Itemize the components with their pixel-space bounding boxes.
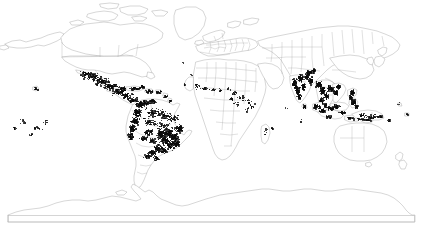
occurrence-dot: [165, 143, 166, 144]
occurrence-dot: [97, 84, 98, 85]
occurrence-dot: [157, 123, 158, 124]
occurrence-dot: [299, 87, 300, 88]
occurrence-dot: [174, 135, 175, 136]
occurrence-dot: [134, 130, 135, 131]
occurrence-dot: [271, 128, 272, 129]
occurrence-dot: [153, 103, 154, 104]
occurrence-dot: [152, 108, 153, 109]
occurrence-dot: [156, 102, 157, 103]
occurrence-dot: [97, 75, 98, 76]
occurrence-dot: [131, 138, 132, 139]
occurrence-dot: [357, 105, 359, 107]
occurrence-dot: [141, 107, 142, 108]
occurrence-dot: [170, 130, 171, 131]
occurrence-dot: [329, 87, 330, 88]
occurrence-dot: [145, 118, 146, 119]
occurrence-dot: [151, 154, 152, 155]
occurrence-dot: [331, 117, 332, 118]
occurrence-dot: [135, 113, 136, 114]
occurrence-dot: [322, 111, 323, 112]
occurrence-dot: [94, 79, 95, 80]
occurrence-dot: [331, 110, 332, 111]
occurrence-dot: [139, 113, 140, 114]
occurrence-dot: [150, 100, 151, 101]
occurrence-dot: [164, 133, 165, 134]
occurrence-dot: [238, 102, 239, 103]
occurrence-dot: [46, 122, 47, 123]
occurrence-dot: [168, 119, 169, 120]
occurrence-dot: [111, 87, 112, 88]
occurrence-dot: [197, 87, 198, 88]
occurrence-dot: [158, 136, 159, 137]
occurrence-dot: [164, 124, 165, 125]
occurrence-dot: [122, 90, 123, 91]
occurrence-dot: [352, 118, 353, 119]
occurrence-dot: [139, 118, 140, 119]
occurrence-dot: [264, 134, 265, 135]
occurrence-dot: [147, 137, 148, 138]
occurrence-dot: [177, 119, 178, 120]
occurrence-dot: [295, 82, 296, 83]
occurrence-dot: [93, 81, 94, 82]
occurrence-dot: [191, 75, 192, 76]
occurrence-dot: [154, 160, 155, 161]
occurrence-dot: [148, 104, 149, 105]
occurrence-dot: [236, 93, 237, 94]
occurrence-dot: [304, 89, 305, 90]
occurrence-dot: [334, 87, 335, 88]
occurrence-dot: [145, 123, 146, 124]
occurrence-dot: [29, 135, 30, 136]
occurrence-dot: [14, 129, 15, 130]
occurrence-dot: [165, 149, 166, 150]
occurrence-dot: [325, 107, 326, 108]
occurrence-dot: [93, 75, 94, 76]
occurrence-dot: [123, 97, 124, 98]
occurrence-dot: [161, 91, 162, 92]
occurrence-dot: [165, 147, 166, 148]
occurrence-dot: [156, 151, 157, 152]
occurrence-dot: [23, 123, 24, 124]
occurrence-dot: [146, 138, 147, 139]
occurrence-dot: [162, 109, 163, 110]
occurrence-dot: [380, 116, 381, 117]
world-distribution-map: [0, 0, 423, 232]
occurrence-dot: [85, 77, 86, 78]
occurrence-dot: [183, 63, 184, 64]
occurrence-dot: [170, 148, 171, 149]
occurrence-dot: [352, 104, 353, 105]
occurrence-dot: [97, 73, 98, 74]
occurrence-dot: [123, 87, 124, 88]
occurrence-dot: [177, 115, 178, 116]
occurrence-dot: [173, 145, 174, 146]
occurrence-dot: [169, 113, 170, 114]
occurrence-dot: [132, 125, 133, 126]
occurrence-dot: [227, 89, 228, 90]
occurrence-dot: [90, 76, 91, 77]
occurrence-dot: [146, 125, 147, 126]
occurrence-dot: [167, 143, 168, 144]
occurrence-dot: [311, 76, 312, 77]
occurrence-dot: [167, 138, 168, 139]
occurrence-dot: [98, 79, 99, 80]
occurrence-dot: [327, 116, 328, 117]
occurrence-dot: [324, 106, 325, 107]
occurrence-dot: [153, 122, 154, 123]
occurrence-dot: [89, 73, 90, 74]
occurrence-dot: [152, 155, 153, 156]
occurrence-dot: [154, 100, 155, 101]
occurrence-dot: [148, 131, 149, 132]
occurrence-dot: [297, 90, 298, 91]
occurrence-dot: [161, 120, 162, 121]
occurrence-dot: [45, 123, 46, 124]
occurrence-dot: [159, 142, 160, 143]
occurrence-dot: [370, 120, 372, 122]
occurrence-dot: [339, 106, 340, 107]
occurrence-dot: [102, 81, 103, 82]
occurrence-dot: [138, 112, 139, 113]
occurrence-dot: [137, 106, 138, 107]
occurrence-dot: [82, 73, 84, 75]
occurrence-dot: [152, 113, 153, 114]
occurrence-dot: [155, 141, 156, 142]
occurrence-dot: [313, 72, 315, 74]
occurrence-dot: [179, 128, 180, 129]
